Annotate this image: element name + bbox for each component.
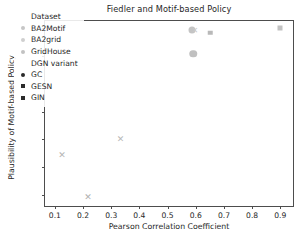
legend-group-header: Dataset — [16, 11, 78, 23]
legend-label: GESN — [30, 82, 52, 91]
x-axis-title: Pearson Correlation Coefficient — [44, 222, 294, 231]
y-tick-mark — [42, 195, 45, 196]
x-tick-mark — [280, 206, 281, 209]
legend-label: BA2grid — [30, 35, 61, 44]
data-point-x: ✕ — [190, 27, 200, 35]
legend-marker-square-icon — [16, 96, 30, 100]
x-tick-label: 0.9 — [265, 211, 295, 220]
legend-group-header: DGN variant — [16, 57, 78, 69]
legend-marker-circle-icon — [16, 50, 30, 54]
x-tick-mark — [168, 206, 169, 209]
x-tick-label: 0.2 — [68, 211, 98, 220]
legend-label: GridHouse — [30, 47, 71, 56]
legend-item-gesn[interactable]: GESN — [16, 81, 78, 93]
legend-group-title: DGN variant — [30, 59, 78, 68]
legend-label: GC — [30, 70, 42, 79]
legend-group-title: Dataset — [30, 12, 61, 21]
x-tick-label: 0.1 — [40, 211, 70, 220]
scatter-chart-figure: Fiedler and Motif-based Policy 0.700.750… — [0, 0, 306, 242]
data-point-x: ✕ — [56, 151, 67, 160]
legend-marker-square-icon — [16, 84, 30, 88]
data-point-square — [278, 25, 283, 30]
legend-label: GIN — [30, 93, 45, 102]
legend-item-ba2grid[interactable]: BA2grid — [16, 34, 78, 46]
x-tick-mark — [55, 206, 56, 209]
legend-marker-circle-icon — [16, 38, 30, 42]
x-tick-label: 0.8 — [237, 211, 267, 220]
data-point-x: ✕ — [115, 135, 126, 144]
x-tick-label: 0.6 — [181, 211, 211, 220]
x-tick-label: 0.5 — [153, 211, 183, 220]
x-tick-mark — [252, 206, 253, 209]
legend-item-gin[interactable]: GIN — [16, 92, 78, 104]
legend-item-ba2motif[interactable]: BA2Motif — [16, 23, 78, 35]
x-tick-mark — [139, 206, 140, 209]
data-point-square — [208, 31, 213, 36]
legend-marker-circle-icon — [16, 26, 30, 30]
x-tick-mark — [224, 206, 225, 209]
legend-marker-circle-icon — [16, 73, 30, 77]
y-tick-mark — [42, 167, 45, 168]
legend-item-gc[interactable]: GC — [16, 69, 78, 81]
x-tick-mark — [196, 206, 197, 209]
y-tick-mark — [42, 139, 45, 140]
x-tick-mark — [83, 206, 84, 209]
x-tick-label: 0.7 — [209, 211, 239, 220]
data-point-x: ✕ — [83, 192, 94, 201]
legend-item-gridhouse[interactable]: GridHouse — [16, 46, 78, 58]
y-tick-mark — [42, 112, 45, 113]
x-tick-mark — [111, 206, 112, 209]
data-point-circle — [189, 50, 197, 58]
legend-label: BA2Motif — [30, 24, 65, 33]
x-tick-label: 0.3 — [96, 211, 126, 220]
x-tick-label: 0.4 — [124, 211, 154, 220]
chart-legend: DatasetBA2MotifBA2gridGridHouseDGN varia… — [14, 9, 84, 107]
